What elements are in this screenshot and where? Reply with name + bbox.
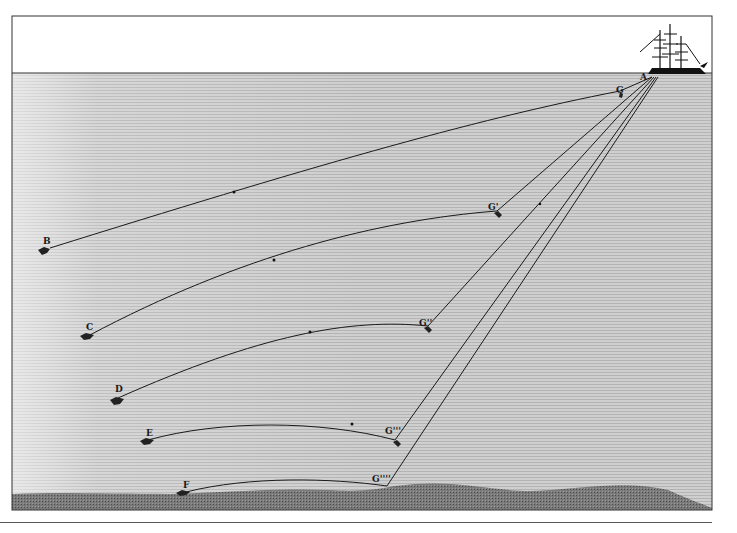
label-g: G — [616, 85, 624, 95]
bottom-rule — [0, 522, 712, 523]
label-g4: G'''' — [372, 474, 391, 484]
label-g1: G' — [488, 202, 498, 212]
label-g3: G''' — [385, 426, 401, 436]
label-ship-a: A — [639, 72, 648, 82]
sounding-line-illustration: A G G' G'' G''' G'''' B C D E F — [0, 0, 737, 533]
label-g2: G'' — [419, 318, 432, 328]
label-b: B — [43, 236, 51, 246]
label-e: E — [146, 428, 153, 438]
label-f: F — [183, 480, 190, 490]
sky — [12, 16, 712, 73]
label-c: C — [86, 322, 93, 332]
label-d: D — [115, 384, 123, 394]
